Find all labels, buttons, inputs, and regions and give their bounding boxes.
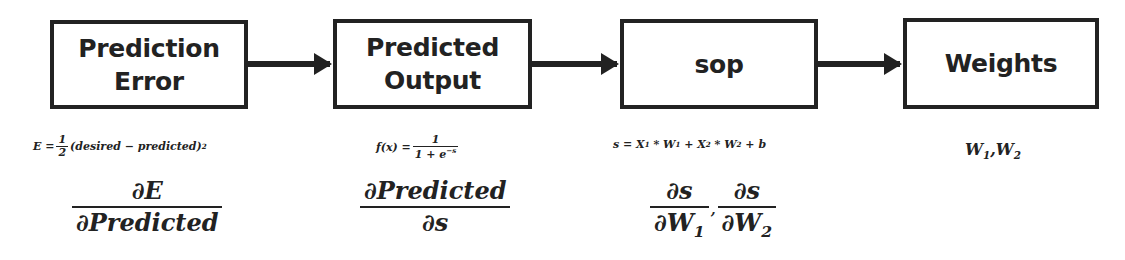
half-den: 2 <box>56 147 68 159</box>
sigmoid-fraction: 1 1 + e−s <box>413 134 459 161</box>
error-eq-body: (desired − predicted) <box>70 140 202 153</box>
d1-den-sub: 1 <box>694 222 705 241</box>
denominator: ∂Predicted <box>72 208 222 238</box>
sigmoid-den: 1 + e−s <box>413 147 459 161</box>
arrow-error-to-output <box>248 61 330 67</box>
denominator: ∂W1 <box>650 208 709 241</box>
sop-eq-s: s = <box>613 138 632 151</box>
node-sop-label: sop <box>694 48 743 81</box>
w2: W <box>996 140 1014 159</box>
w1: W <box>965 140 983 159</box>
error-eq-exp: 2 <box>202 142 207 151</box>
sigmoid-den-exp: −s <box>446 146 456 155</box>
fraction: ∂Predicted ∂s <box>360 176 510 238</box>
derivative-dPredicted-ds: ∂Predicted ∂s <box>358 176 512 238</box>
w2-sub: 2 <box>1014 149 1021 161</box>
node-sop: sop <box>620 19 818 109</box>
times1: * <box>650 138 663 151</box>
numerator: ∂s <box>662 176 696 206</box>
d1-den: ∂W <box>654 208 694 237</box>
comma: , <box>711 201 716 217</box>
node-predicted-output: Predicted Output <box>333 19 532 109</box>
fraction-ds-dW1: ∂s ∂W1 <box>650 176 709 241</box>
error-eq-lhs: E = <box>33 140 54 153</box>
fraction-ds-dW2: ∂s ∂W2 <box>718 176 777 241</box>
sop-equation: s = X1 * W1 + X2 * W2 + b <box>613 138 766 151</box>
plus1: + <box>680 138 697 151</box>
times2: * <box>711 138 724 151</box>
sigmoid-equation: f(x) = 1 1 + e−s <box>376 134 460 161</box>
sigmoid-eq-lhs: f(x) = <box>376 141 411 154</box>
sigmoid-den-base: 1 + e <box>415 148 447 161</box>
half-fraction: 1 2 <box>56 134 68 159</box>
numerator: ∂Predicted <box>360 176 510 206</box>
d2-den: ∂W <box>722 208 762 237</box>
denominator: ∂W2 <box>718 208 777 241</box>
weights-list: W1,W2 <box>965 140 1021 161</box>
half-num: 1 <box>56 134 68 146</box>
sigmoid-num: 1 <box>430 134 442 146</box>
error-equation: E = 1 2 (desired − predicted)2 <box>33 134 207 159</box>
derivative-dE-dPredicted: ∂E ∂Predicted <box>70 176 224 238</box>
node-weights-label: Weights <box>945 47 1058 80</box>
x2: X <box>697 138 706 151</box>
numerator: ∂s <box>730 176 764 206</box>
w2: W <box>724 138 736 151</box>
x1: X <box>636 138 645 151</box>
numerator: ∂E <box>128 176 167 206</box>
plus2: + b <box>742 138 767 151</box>
arrow-sop-to-weights <box>818 61 900 67</box>
node-prediction-error-label: Prediction Error <box>78 32 219 98</box>
denominator: ∂s <box>418 208 452 238</box>
node-predicted-output-label: Predicted Output <box>366 31 499 97</box>
w1: W <box>663 138 675 151</box>
node-prediction-error: Prediction Error <box>50 20 248 109</box>
node-weights: Weights <box>903 18 1099 109</box>
derivative-ds-dW: ∂s ∂W1 , ∂s ∂W2 <box>648 176 778 241</box>
fraction: ∂E ∂Predicted <box>72 176 222 238</box>
d2-den-sub: 2 <box>761 222 772 241</box>
arrow-output-to-sop <box>532 61 617 67</box>
